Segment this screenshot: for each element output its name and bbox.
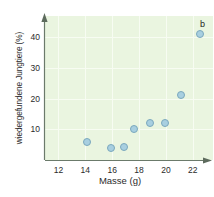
data-point bbox=[161, 119, 169, 127]
gridline-horizontal bbox=[45, 129, 213, 130]
gridline-horizontal bbox=[45, 99, 213, 100]
data-point bbox=[83, 138, 91, 146]
gridline-horizontal bbox=[45, 37, 213, 38]
data-point bbox=[177, 91, 185, 99]
plot-area: b bbox=[45, 16, 213, 160]
x-tick-label: 14 bbox=[75, 165, 95, 175]
x-tick-label: 22 bbox=[183, 165, 203, 175]
y-tick-label: 10 bbox=[18, 124, 40, 134]
scatter-chart-figure: wiedergefundene Jungtiere (%) b 10203040… bbox=[0, 0, 214, 197]
data-point bbox=[130, 125, 138, 133]
x-tick-label: 12 bbox=[48, 165, 68, 175]
y-tick-label: 20 bbox=[18, 94, 40, 104]
x-tick-label: 20 bbox=[156, 165, 176, 175]
x-tick-label: 16 bbox=[102, 165, 122, 175]
data-point bbox=[196, 30, 204, 38]
data-point bbox=[146, 119, 154, 127]
gridline-horizontal bbox=[45, 68, 213, 69]
x-tick-label: 18 bbox=[129, 165, 149, 175]
data-point bbox=[107, 144, 115, 152]
y-tick-label: 40 bbox=[18, 32, 40, 42]
panel-label: b bbox=[200, 19, 205, 29]
y-tick-label: 30 bbox=[18, 63, 40, 73]
x-axis-label: Masse (g) bbox=[55, 175, 185, 186]
data-point bbox=[120, 143, 128, 151]
